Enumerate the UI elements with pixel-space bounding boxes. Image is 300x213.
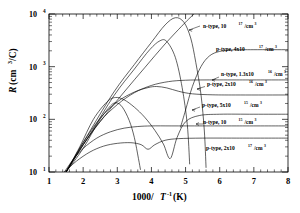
svg-text:/C): /C) — [8, 48, 19, 62]
leader-lines — [189, 26, 219, 125]
svg-text:/cm: /cm — [273, 71, 283, 77]
svg-text:1: 1 — [43, 166, 46, 172]
svg-text:17: 17 — [259, 45, 263, 49]
svg-text:n-type, 1.3x10: n-type, 1.3x10 — [221, 71, 254, 77]
ann-p-4e17: p-type, 4x10 17 /cm 3 — [216, 45, 277, 52]
ann-n-1e17: n-type, 10 17 /cm 3 — [203, 22, 257, 29]
svg-text:17: 17 — [248, 144, 252, 148]
curve-drop-curve-c — [66, 103, 140, 172]
svg-text:p-type, 2x10: p-type, 2x10 — [206, 145, 235, 151]
svg-text:1000/: 1000/ — [132, 192, 154, 202]
svg-text:17: 17 — [239, 22, 243, 26]
svg-text:(cm: (cm — [8, 70, 19, 85]
svg-text:15: 15 — [244, 101, 248, 105]
x-tick-label-4: 4 — [149, 176, 154, 186]
svg-text:p-type, 4x10: p-type, 4x10 — [216, 46, 245, 52]
curve-steep-line — [66, 14, 194, 172]
y-axis-ticks — [49, 14, 288, 172]
plot-frame — [49, 14, 288, 172]
y-axis-title: R (cm 3 /C) — [7, 48, 19, 94]
svg-text:T: T — [160, 192, 167, 202]
svg-text:n-type, 10: n-type, 10 — [203, 23, 226, 29]
x-axis-ticks — [49, 14, 288, 172]
figure-container: 10 1 10 2 10 3 10 4 12345678 R (cm 3 /C)… — [0, 0, 300, 213]
svg-text:3: 3 — [43, 60, 46, 66]
ann-n-1e15: n-type, 10 15 /cm 3 — [203, 118, 257, 125]
svg-text:/cm: /cm — [244, 23, 254, 29]
curve-peak-curve-b — [66, 40, 190, 172]
svg-text:2: 2 — [43, 113, 46, 119]
x-axis-title: 1000/ T -1 (K) — [132, 191, 187, 204]
svg-text:3: 3 — [255, 22, 257, 26]
svg-text:3: 3 — [284, 70, 286, 74]
svg-text:(K): (K) — [173, 192, 187, 203]
svg-text:3: 3 — [275, 45, 277, 49]
y-tick-label-1e3: 10 3 — [29, 60, 46, 72]
curve-p-type-4x10-17-cm-3 — [180, 50, 288, 128]
svg-text:4: 4 — [43, 8, 46, 14]
x-tick-label-2: 2 — [81, 176, 85, 186]
svg-text:10: 10 — [29, 168, 37, 177]
y-tick-label-1e1: 10 1 — [29, 166, 46, 178]
y-tick-label-1e2: 10 2 — [29, 113, 46, 125]
curve-n-type-1-3x10-16-cm-3 — [66, 87, 288, 172]
ann-n-1p3e16: n-type, 1.3x10 16 /cm 3 — [221, 70, 286, 77]
y-tick-label-1e4: 10 4 — [29, 8, 46, 20]
svg-text:/cm: /cm — [254, 81, 264, 87]
curve-peak-curve-a — [66, 18, 206, 172]
svg-text:p-type, 5x10: p-type, 5x10 — [202, 102, 231, 108]
x-tick-label-5: 5 — [183, 176, 187, 186]
curve-p-type-5x10-15-cm-3 — [66, 97, 288, 172]
x-tick-label-7: 7 — [252, 176, 257, 186]
svg-text:10: 10 — [29, 10, 37, 19]
svg-text:10: 10 — [29, 63, 37, 72]
x-tick-label-8: 8 — [286, 176, 290, 186]
svg-text:16: 16 — [268, 70, 272, 74]
svg-text:10: 10 — [29, 115, 37, 124]
svg-text:3: 3 — [265, 80, 267, 84]
x-tick-label-3: 3 — [115, 176, 119, 186]
svg-text:3: 3 — [260, 101, 262, 105]
x-tick-label-6: 6 — [218, 176, 222, 186]
svg-text:15: 15 — [239, 118, 243, 122]
svg-text:16: 16 — [249, 80, 253, 84]
svg-text:R: R — [8, 87, 18, 94]
x-tick-labels: 12345678 — [47, 176, 290, 186]
svg-text:/cm: /cm — [244, 119, 254, 125]
curve-p-type-2x10-17-cm-3 — [64, 138, 288, 172]
svg-text:p-type, 2x10: p-type, 2x10 — [207, 81, 236, 87]
svg-text:/cm: /cm — [253, 145, 263, 151]
ann-p-2e17: p-type, 2x10 17 /cm 3 — [206, 144, 266, 151]
svg-text:-1: -1 — [167, 191, 172, 197]
svg-text:n-type, 10: n-type, 10 — [203, 119, 226, 125]
x-tick-label-1: 1 — [47, 176, 51, 186]
svg-text:3: 3 — [264, 144, 266, 148]
svg-text:/cm: /cm — [249, 102, 259, 108]
hall-coefficient-chart: 10 1 10 2 10 3 10 4 12345678 R (cm 3 /C)… — [0, 0, 300, 213]
svg-text:3: 3 — [255, 118, 257, 122]
ann-p-5e15: p-type, 5x10 15 /cm 3 — [202, 101, 262, 108]
svg-text:/cm: /cm — [264, 46, 274, 52]
ann-p-2e16: p-type, 2x10 16 /cm 3 — [207, 80, 267, 87]
